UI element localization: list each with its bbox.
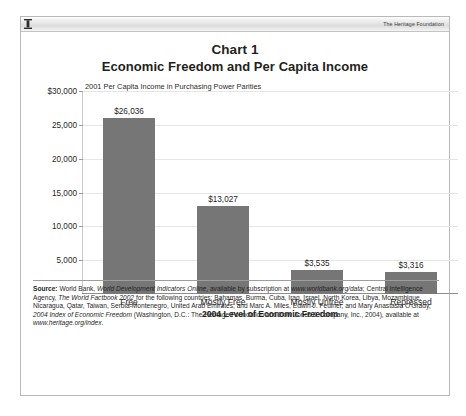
document-marker-icon bbox=[24, 19, 32, 29]
title-block: Chart 1 Economic Freedom and Per Capita … bbox=[21, 32, 449, 75]
y-axis-tick-label: $30,000 bbox=[47, 87, 77, 96]
source-line5-url: www.heritage.org/index bbox=[33, 319, 102, 326]
source-line4-a: Miles, Edwin J. Feulner, and Mary Anasta… bbox=[274, 302, 431, 309]
y-axis-labels: 5,00010,00015,00020,00025,000$30,000 bbox=[21, 91, 77, 294]
chart-number: Chart 1 bbox=[21, 42, 449, 58]
bar-value-label: $26,036 bbox=[114, 107, 144, 116]
bar-series: $26,036Free$13,027Mostly Free$3,535Mostl… bbox=[82, 91, 458, 294]
source-line2-b: for the following countries: Bahamas, Bu… bbox=[134, 294, 321, 301]
y-axis-tick-label: 5,000 bbox=[57, 256, 78, 265]
source-line4-italic: 2004 Index of Economic Freedom bbox=[33, 311, 132, 318]
y-axis-tick-label: 15,000 bbox=[52, 188, 77, 197]
source-line5-a: Foundation and Dow Jones & Company, Inc.… bbox=[231, 311, 419, 318]
source-line1-c: ; bbox=[363, 285, 365, 292]
source-label: Source: bbox=[33, 285, 58, 292]
source-line2-italic: The World Factbook 2002 bbox=[58, 294, 134, 301]
source-line1-b: , available by subscription at bbox=[206, 285, 291, 292]
bar-group: $3,535Mostly Unfree bbox=[270, 91, 364, 294]
bar-group: $26,036Free bbox=[82, 91, 176, 294]
source-line1-a: World Bank, bbox=[58, 285, 97, 292]
bar-value-label: $3,535 bbox=[304, 259, 329, 268]
source-line5-b: . bbox=[102, 319, 104, 326]
page-root: The Heritage Foundation Chart 1 Economic… bbox=[0, 0, 466, 416]
chart-area: 2001 Per Capita Income in Purchasing Pow… bbox=[21, 82, 449, 312]
y-axis-tick-label: 25,000 bbox=[52, 120, 77, 129]
chart-panel: The Heritage Foundation Chart 1 Economic… bbox=[20, 16, 450, 396]
panel-body: Chart 1 Economic Freedom and Per Capita … bbox=[21, 32, 449, 396]
bar[interactable] bbox=[103, 118, 155, 294]
bar-group: $3,316Repressed bbox=[364, 91, 458, 294]
source-line4-b: (Washington, D.C.: The Heritage bbox=[132, 311, 229, 318]
y-axis-tick-label: 20,000 bbox=[52, 154, 77, 163]
source-note: Source: World Bank, World Development In… bbox=[33, 285, 441, 328]
y-axis-tick-label: 10,000 bbox=[52, 222, 77, 231]
source-line1-url: www.worldbank.org/data bbox=[291, 285, 363, 292]
source-divider bbox=[33, 280, 439, 281]
bar-value-label: $3,316 bbox=[398, 261, 423, 270]
bar-group: $13,027Mostly Free bbox=[176, 91, 270, 294]
bar-value-label: $13,027 bbox=[208, 195, 238, 204]
brand-label: The Heritage Foundation bbox=[383, 21, 449, 27]
panel-header-bar: The Heritage Foundation bbox=[21, 17, 449, 32]
source-line1-italic: World Development Indicators Online bbox=[97, 285, 206, 292]
chart-title: Economic Freedom and Per Capita Income bbox=[21, 58, 449, 75]
chart-subtitle: 2001 Per Capita Income in Purchasing Pow… bbox=[85, 82, 261, 91]
